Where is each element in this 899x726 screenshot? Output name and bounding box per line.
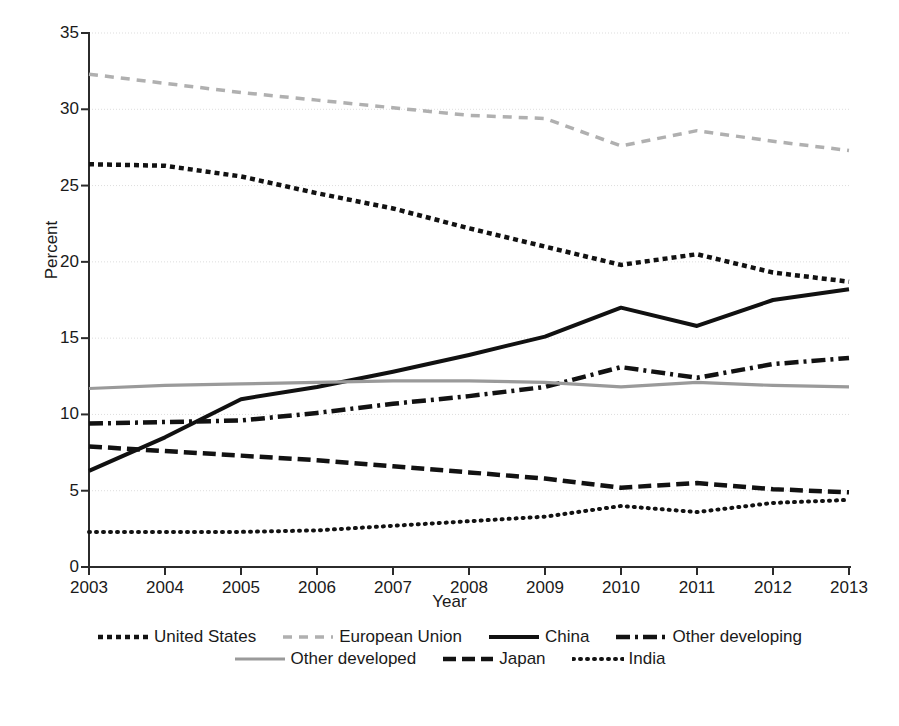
legend-item-label: Other developed [291, 650, 417, 668]
series-line-other-developed [89, 381, 849, 389]
legend-item-european-union[interactable]: European Union [282, 628, 462, 646]
line-plot-canvas [0, 0, 899, 726]
legend-item-label: China [545, 628, 589, 646]
series-line-japan [89, 446, 849, 492]
legend-swatch-icon [97, 630, 149, 644]
legend-item-japan[interactable]: Japan [442, 650, 545, 668]
legend-swatch-icon [488, 630, 540, 644]
data-series-group [89, 74, 849, 532]
legend-swatch-icon [234, 652, 286, 666]
legend-item-china[interactable]: China [488, 628, 589, 646]
legend-row: Other developedJapanIndia [0, 650, 899, 668]
legend-swatch-icon [615, 630, 667, 644]
legend-item-united-states[interactable]: United States [97, 628, 256, 646]
series-line-india [89, 500, 849, 532]
series-line-united-states [89, 164, 849, 281]
series-line-other-developing [89, 358, 849, 424]
chart-legend: United StatesEuropean UnionChinaOther de… [0, 628, 899, 672]
legend-row: United StatesEuropean UnionChinaOther de… [0, 628, 899, 646]
axis-lines [81, 32, 851, 575]
legend-item-label: United States [154, 628, 256, 646]
chart-container: Percent Year 05101520253035 200320042005… [0, 0, 899, 726]
legend-item-label: Japan [499, 650, 545, 668]
legend-item-label: European Union [339, 628, 462, 646]
legend-swatch-icon [442, 652, 494, 666]
legend-item-other-developing[interactable]: Other developing [615, 628, 801, 646]
series-line-european-union [89, 74, 849, 150]
legend-swatch-icon [572, 652, 624, 666]
legend-item-label: Other developing [672, 628, 801, 646]
legend-item-other-developed[interactable]: Other developed [234, 650, 417, 668]
legend-swatch-icon [282, 630, 334, 644]
legend-item-india[interactable]: India [572, 650, 666, 668]
legend-item-label: India [629, 650, 666, 668]
